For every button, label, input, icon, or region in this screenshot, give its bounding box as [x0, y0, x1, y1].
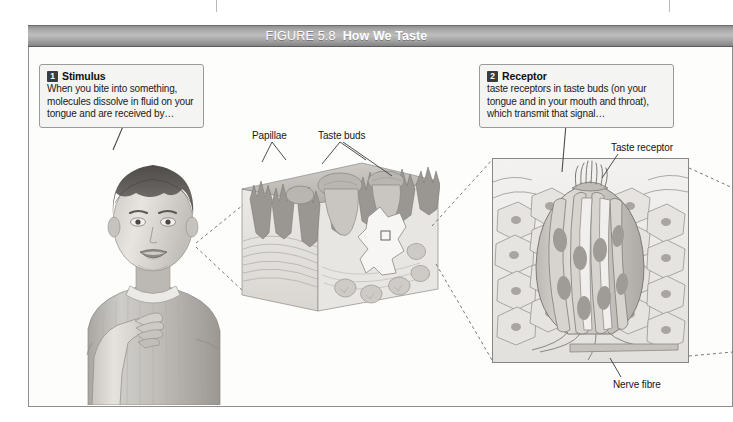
figure-number: FIGURE 5.8 [266, 29, 336, 43]
figure-header-bar: FIGURE 5.8 How We Taste [28, 25, 733, 47]
figure-title: How We Taste [343, 29, 428, 43]
callout-receptor-head: 2 Receptor [487, 70, 666, 82]
label-nerve-fibre: Nerve fibre [613, 379, 661, 390]
scan-artifact-tick [669, 0, 670, 12]
taste-bud-illustration [492, 158, 689, 363]
tongue-tissue-block-illustration [240, 155, 440, 315]
step-badge-2: 2 [487, 71, 498, 82]
callout-stimulus-title: Stimulus [62, 70, 106, 82]
label-taste-receptor: Taste receptor [611, 142, 673, 153]
figure-header-inner: FIGURE 5.8 How We Taste [266, 29, 428, 43]
callout-receptor-title: Receptor [502, 70, 547, 82]
callout-receptor: 2 Receptor taste receptors in taste buds… [479, 64, 674, 128]
child-illustration [78, 143, 228, 405]
label-papillae: Papillae [252, 130, 287, 141]
scan-artifact-tick [216, 0, 217, 12]
callout-stimulus-head: 1 Stimulus [47, 70, 196, 82]
label-taste-buds: Taste buds [318, 130, 365, 141]
callout-stimulus-body: When you bite into something, molecules … [47, 83, 196, 121]
callout-stimulus: 1 Stimulus When you bite into something,… [39, 64, 204, 128]
callout-receptor-body: taste receptors in taste buds (on your t… [487, 83, 666, 121]
step-badge-1: 1 [47, 71, 58, 82]
